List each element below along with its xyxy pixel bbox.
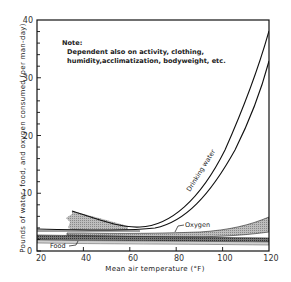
note-line-2: humidity,acclimatization, bodyweight, et… xyxy=(67,57,226,65)
y-axis-title: Pounds of water, food, and oxygen consum… xyxy=(19,23,27,252)
water-band-shading xyxy=(66,211,128,230)
note-line-1: Dependent also on activity, clothing, xyxy=(67,48,204,56)
note-title: Note: xyxy=(62,39,82,47)
x-tick-40: 40 xyxy=(81,254,91,263)
x-ticks xyxy=(83,247,222,251)
x-tick-20: 20 xyxy=(36,254,46,263)
x-tick-120: 120 xyxy=(263,254,278,263)
y-tick-0: 0 xyxy=(27,247,32,256)
drinking-water-lower-curve xyxy=(37,61,269,230)
x-tick-80: 80 xyxy=(174,254,184,263)
x-axis-title: Mean air temperature (°F) xyxy=(105,265,204,273)
oxygen-leader-line xyxy=(175,225,184,232)
food-label: Food xyxy=(50,242,66,250)
x-tick-60: 60 xyxy=(128,254,138,263)
chart: 0 10 20 30 40 20 40 60 80 100 120 Mean a… xyxy=(0,0,291,282)
x-tick-100: 100 xyxy=(217,254,232,263)
oxygen-label: Oxygen xyxy=(185,221,210,229)
